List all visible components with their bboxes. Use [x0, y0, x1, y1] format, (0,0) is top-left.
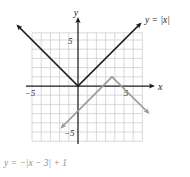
equation-label-gray: y = −|x − 3| + 1 [3, 158, 67, 168]
figure-container: y x −5 5 5 −5 y = |x| y = −|x − 3| + 1 [0, 0, 190, 177]
y-tick-neg5: −5 [64, 128, 75, 138]
equation-label-black: y = |x| [144, 15, 170, 25]
y-axis-label: y [73, 7, 79, 18]
y-tick-pos5: 5 [68, 36, 73, 46]
absolute-value-graph: y x −5 5 5 −5 y = |x| y = −|x − 3| + 1 [0, 0, 190, 177]
x-axis-label: x [157, 81, 163, 92]
x-tick-neg5: −5 [25, 88, 36, 98]
